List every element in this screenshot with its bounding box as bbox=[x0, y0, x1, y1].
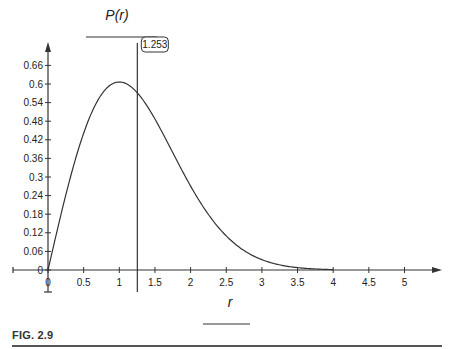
x-tick-label: 2 bbox=[188, 277, 194, 288]
x-tick-label: 0.5 bbox=[77, 277, 91, 288]
y-ticks: 00.060.120.180.240.30.360.420.480.540.60… bbox=[24, 60, 51, 276]
x-tick-label: 3.5 bbox=[291, 277, 305, 288]
x-tick-label: 1.5 bbox=[148, 277, 162, 288]
x-tick-label: 3 bbox=[259, 277, 265, 288]
y-tick-label: 0.48 bbox=[24, 116, 44, 127]
x-tick-label: 4.5 bbox=[362, 277, 376, 288]
x-tick-label: 1 bbox=[117, 277, 123, 288]
y-tick-label: 0.3 bbox=[29, 172, 43, 183]
y-axis bbox=[44, 42, 52, 292]
x-axis-title: r bbox=[228, 294, 234, 310]
y-tick-label: 0 bbox=[37, 265, 43, 276]
y-tick-label: 0.24 bbox=[24, 190, 44, 201]
y-tick-label: 0.54 bbox=[24, 97, 44, 108]
y-axis-title: P(r) bbox=[105, 7, 128, 23]
mean-callout: 1.253 bbox=[141, 37, 168, 52]
y-tick-label: 0.18 bbox=[24, 209, 44, 220]
chart: P(r) 00.060.120.180.240.30.360.420.480.5… bbox=[0, 0, 456, 349]
y-tick-label: 0.36 bbox=[24, 153, 44, 164]
y-tick-label: 0.66 bbox=[24, 60, 44, 71]
y-tick-label: 0.6 bbox=[29, 79, 43, 90]
y-axis-arrow-icon bbox=[45, 42, 51, 52]
y-tick-label: 0.42 bbox=[24, 134, 44, 145]
x-tick-label: 2.5 bbox=[219, 277, 233, 288]
pdf-curve bbox=[48, 82, 333, 270]
figure-caption: FIG. 2.9 bbox=[12, 329, 53, 341]
x-axis-arrow-icon bbox=[432, 267, 442, 273]
caption-rule bbox=[12, 345, 442, 347]
y-tick-label: 0.12 bbox=[24, 227, 44, 238]
x-axis bbox=[13, 267, 442, 273]
mean-callout-label: 1.253 bbox=[142, 39, 167, 50]
x-tick-label: 0 bbox=[45, 277, 51, 288]
x-tick-label: 4 bbox=[330, 277, 336, 288]
y-tick-label: 0.06 bbox=[24, 246, 44, 257]
x-tick-label: 5 bbox=[402, 277, 408, 288]
